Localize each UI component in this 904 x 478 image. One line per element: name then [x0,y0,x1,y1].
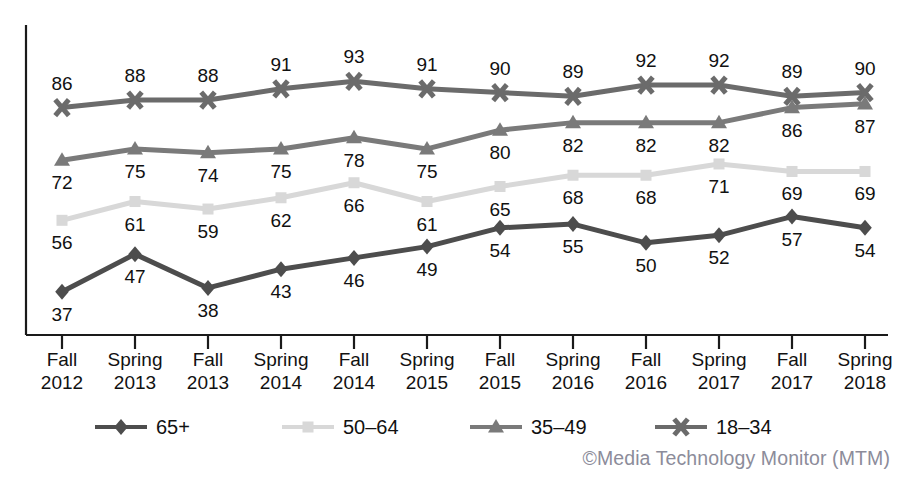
value-label: 50 [626,255,666,277]
x-tick-label: Spring2018 [822,348,904,394]
value-label: 82 [699,135,739,157]
value-label: 55 [553,236,593,258]
value-label: 74 [188,165,228,187]
value-label: 89 [772,61,812,83]
legend-marker-triangle-icon [485,416,507,438]
value-label: 56 [42,232,82,254]
legend-label: 35–49 [531,416,587,439]
data-point-marker-square [422,196,433,207]
value-label: 68 [626,187,666,209]
value-label: 78 [334,150,374,172]
line-chart: 8688889193919089929289907275747578758082… [0,0,904,478]
data-point-marker-square [787,166,798,177]
x-tick-season: Spring [822,348,904,371]
legend-swatch-square-icon [282,416,334,438]
data-point-marker-diamond [55,284,69,300]
data-point-marker-square [714,158,725,169]
data-point-marker-diamond [128,246,142,262]
value-label: 61 [407,214,447,236]
value-label: 68 [553,187,593,209]
data-point-marker-diamond [274,261,288,277]
value-label: 75 [115,161,155,183]
value-label: 75 [407,161,447,183]
value-label: 92 [699,50,739,72]
value-label: 92 [626,50,666,72]
legend-swatch-triangle-icon [470,416,522,438]
data-point-marker-diamond [566,216,580,232]
data-point-marker-diamond [712,227,726,243]
value-label: 86 [42,73,82,95]
data-point-marker-diamond [420,239,434,255]
data-point-marker-square [303,422,314,433]
value-label: 88 [115,65,155,87]
data-point-marker-square [130,196,141,207]
legend-swatch-x-cross-icon [655,416,707,438]
data-point-marker-square [276,192,287,203]
series-18-34 [55,73,872,115]
value-label: 75 [261,161,301,183]
data-point-marker-diamond [858,220,872,236]
data-point-marker-diamond [114,419,128,435]
data-point-marker-diamond [493,220,507,236]
data-point-marker-diamond [347,250,361,266]
legend-label: 18–34 [716,416,772,439]
value-label: 38 [188,300,228,322]
series-line-50-64 [62,164,865,220]
value-label: 43 [261,281,301,303]
value-label: 61 [115,214,155,236]
legend-item-35–49[interactable]: 35–49 [470,412,587,442]
legend-item-65+[interactable]: 65+ [95,412,190,442]
data-point-marker-triangle [488,419,504,433]
value-label: 91 [261,54,301,76]
value-label: 89 [553,61,593,83]
series-line-35-49 [62,104,865,160]
value-label: 69 [845,183,885,205]
value-label: 47 [115,266,155,288]
legend-marker-diamond-icon [110,416,132,438]
chart-axes [26,25,888,349]
data-point-marker-square [349,177,360,188]
legend-marker-square-icon [297,416,319,438]
value-label: 88 [188,65,228,87]
value-label: 59 [188,221,228,243]
data-point-marker-diamond [201,280,215,296]
value-label: 54 [480,240,520,262]
series-line-18-34 [62,81,865,107]
value-label: 62 [261,210,301,232]
data-point-marker-square [641,170,652,181]
legend-item-50–64[interactable]: 50–64 [282,412,399,442]
legend-label: 50–64 [343,416,399,439]
data-point-marker-square [203,204,214,215]
value-label: 93 [334,46,374,68]
value-label: 71 [699,176,739,198]
series-line-65+ [62,217,865,292]
x-tick-year: 2018 [822,371,904,394]
value-label: 57 [772,229,812,251]
value-label: 86 [772,120,812,142]
series-65+ [55,209,872,300]
chart-legend: 65+50–6435–4918–34 [95,412,835,446]
value-label: 66 [334,195,374,217]
value-label: 87 [845,116,885,138]
value-label: 80 [480,142,520,164]
data-point-marker-x-cross [674,419,688,435]
value-label: 49 [407,259,447,281]
data-point-marker-diamond [639,235,653,251]
copyright-notice: ©Media Technology Monitor (MTM) [582,447,890,470]
chart-series-group [54,73,873,299]
legend-swatch-diamond-icon [95,416,147,438]
value-label: 46 [334,270,374,292]
data-point-marker-square [57,215,68,226]
data-point-marker-diamond [785,209,799,225]
legend-item-18–34[interactable]: 18–34 [655,412,772,442]
value-label: 91 [407,54,447,76]
legend-marker-x-cross-icon [670,416,692,438]
value-label: 90 [480,58,520,80]
value-label: 54 [845,240,885,262]
data-point-marker-square [495,181,506,192]
value-label: 52 [699,247,739,269]
value-label: 72 [42,172,82,194]
value-label: 82 [626,135,666,157]
value-label: 65 [480,199,520,221]
value-label: 37 [42,304,82,326]
